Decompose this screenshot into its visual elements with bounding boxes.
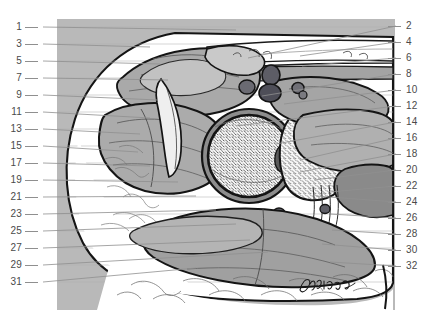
right-label-column: 2 4 6 8 10 12 14 16 18 20 22 24 26 28 30… [384,0,439,331]
leader-stub [25,282,38,283]
label-28: 28 [406,229,418,239]
label-15: 15 [10,141,22,151]
label-26: 26 [406,213,418,223]
label-3: 3 [16,39,22,49]
leader-stub [388,266,401,267]
label-8: 8 [406,69,412,79]
label-18: 18 [406,149,418,159]
label-22: 22 [406,181,418,191]
label-20: 20 [406,165,418,175]
label-7: 7 [16,73,22,83]
leader-stub [25,27,38,28]
label-16: 16 [406,133,418,143]
leader-stub [25,163,38,164]
leader-stub [388,186,401,187]
leader-stub [388,170,401,171]
label-6: 6 [406,53,412,63]
label-2: 2 [406,21,412,31]
leader-stub [25,129,38,130]
label-32: 32 [406,261,418,271]
label-11: 11 [11,107,22,117]
anatomy-drawing-svg [57,19,395,310]
leader-stub [388,122,401,123]
leader-stub [25,248,38,249]
label-1: 1 [16,22,22,32]
label-10: 10 [406,85,418,95]
label-17: 17 [10,158,22,168]
label-31: 31 [10,277,22,287]
label-9: 9 [16,90,22,100]
leader-stub [25,95,38,96]
label-29: 29 [10,260,22,270]
illustration-page: 1 3 5 7 9 11 13 15 17 19 21 23 25 27 29 … [0,0,439,331]
leader-stub [388,74,401,75]
leader-stub [388,218,401,219]
leader-stub [388,106,401,107]
leader-stub [25,197,38,198]
leader-stub [388,250,401,251]
label-30: 30 [406,245,418,255]
leader-stub [388,26,401,27]
leader-stub [25,214,38,215]
label-25: 25 [10,226,22,236]
label-23: 23 [10,209,22,219]
leader-stub [388,234,401,235]
leader-stub [388,58,401,59]
leader-stub [25,112,38,113]
leader-stub [25,61,38,62]
leader-stub [388,138,401,139]
label-21: 21 [10,192,22,202]
left-label-column: 1 3 5 7 9 11 13 15 17 19 21 23 25 27 29 … [0,0,55,331]
leader-stub [25,78,38,79]
label-13: 13 [10,124,22,134]
label-14: 14 [406,117,418,127]
leader-stub [388,154,401,155]
leader-stub [25,265,38,266]
leader-stub [25,44,38,45]
label-4: 4 [406,37,412,47]
label-27: 27 [10,243,22,253]
anatomical-figure [57,19,395,310]
leader-stub [25,180,38,181]
label-24: 24 [406,197,418,207]
leader-stub [25,146,38,147]
leader-stub [388,90,401,91]
label-5: 5 [16,56,22,66]
label-12: 12 [406,101,418,111]
leader-stub [388,42,401,43]
leader-stub [388,202,401,203]
label-19: 19 [10,175,22,185]
leader-stub [25,231,38,232]
